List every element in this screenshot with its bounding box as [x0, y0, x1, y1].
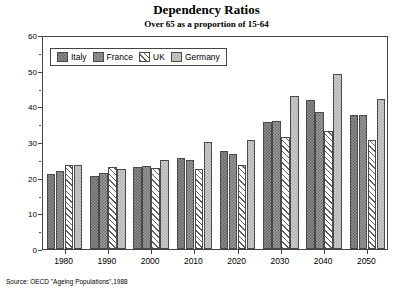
- x-axis-label-2010: 2010: [173, 256, 213, 266]
- y-axis-label-20: 20: [17, 174, 37, 183]
- x-axis-label-2020: 2020: [217, 256, 257, 266]
- bar-germany-2000: [160, 160, 169, 249]
- y-tick-60: [38, 36, 42, 37]
- plot-area: [42, 36, 388, 250]
- x-tick-2010: [194, 249, 195, 254]
- bar-france-2040: [315, 112, 324, 249]
- y-tick-minor-35: [39, 125, 41, 126]
- bar-germany-2010: [204, 142, 213, 249]
- chart-page: Dependency Ratios Over 65 as a proportio…: [0, 0, 413, 297]
- x-axis-label-1980: 1980: [44, 256, 84, 266]
- bar-france-2010: [186, 160, 195, 249]
- legend-label-italy: Italy: [71, 52, 87, 62]
- bar-italy-2020: [220, 151, 229, 249]
- x-tick-2000: [151, 249, 152, 254]
- x-axis-label-2030: 2030: [260, 256, 300, 266]
- legend-label-france: France: [107, 52, 133, 62]
- legend-item-uk: UK: [139, 52, 165, 62]
- legend-item-france: France: [93, 52, 133, 62]
- bar-group-2050: [350, 37, 386, 249]
- legend-swatch-germany: [171, 52, 182, 62]
- bar-france-2050: [359, 115, 368, 249]
- bar-uk-2010: [195, 169, 204, 249]
- legend-swatch-italy: [57, 52, 68, 62]
- bar-germany-2040: [333, 74, 342, 249]
- bar-group-2030: [263, 37, 299, 249]
- bar-group-2010: [177, 37, 213, 249]
- bar-group-2000: [133, 37, 169, 249]
- source-note: Source: OECD "Ageing Populations",1988: [6, 278, 128, 285]
- legend-label-uk: UK: [153, 52, 165, 62]
- y-axis-label-30: 30: [17, 139, 37, 148]
- y-tick-minor-25: [39, 161, 41, 162]
- bar-germany-1990: [117, 169, 126, 249]
- bar-italy-2010: [177, 158, 186, 249]
- y-axis-label-0: 0: [17, 246, 37, 255]
- bar-france-1980: [56, 171, 65, 249]
- legend-swatch-uk: [139, 52, 150, 62]
- bar-italy-2030: [263, 122, 272, 249]
- y-tick-minor-5: [39, 232, 41, 233]
- x-axis-label-1990: 1990: [87, 256, 127, 266]
- y-axis-label-40: 40: [17, 103, 37, 112]
- legend-item-italy: Italy: [57, 52, 87, 62]
- legend-label-germany: Germany: [185, 52, 220, 62]
- chart-title: Dependency Ratios: [0, 2, 413, 18]
- y-tick-50: [38, 72, 42, 73]
- bar-italy-2050: [350, 115, 359, 249]
- legend-swatch-france: [93, 52, 104, 62]
- bar-uk-2030: [281, 137, 290, 249]
- y-tick-0: [38, 250, 42, 251]
- bar-uk-2040: [324, 131, 333, 249]
- bar-italy-1980: [47, 174, 56, 249]
- bar-uk-2020: [238, 165, 247, 249]
- x-tick-2050: [367, 249, 368, 254]
- x-axis-label-2040: 2040: [303, 256, 343, 266]
- legend-item-germany: Germany: [171, 52, 220, 62]
- x-tick-2030: [281, 249, 282, 254]
- bar-group-2040: [306, 37, 342, 249]
- y-axis-label-60: 60: [17, 32, 37, 41]
- chart-subtitle: Over 65 as a proportion of 15-64: [0, 19, 413, 29]
- y-tick-10: [38, 214, 42, 215]
- bar-uk-2050: [368, 140, 377, 249]
- y-tick-20: [38, 179, 42, 180]
- x-tick-2040: [324, 249, 325, 254]
- y-tick-minor-45: [39, 90, 41, 91]
- y-tick-minor-15: [39, 197, 41, 198]
- bar-italy-2000: [133, 167, 142, 249]
- bar-italy-1990: [90, 176, 99, 249]
- bar-france-2020: [229, 154, 238, 249]
- bar-group-2020: [220, 37, 256, 249]
- y-axis-label-10: 10: [17, 210, 37, 219]
- bar-uk-1990: [108, 167, 117, 249]
- bar-germany-2050: [377, 99, 386, 249]
- bar-germany-2030: [290, 96, 299, 249]
- bar-uk-1980: [65, 165, 74, 249]
- bar-france-1990: [99, 173, 108, 249]
- x-tick-2020: [238, 249, 239, 254]
- y-tick-30: [38, 143, 42, 144]
- bar-germany-2020: [247, 140, 256, 249]
- bar-france-2030: [272, 121, 281, 249]
- chart-legend: Italy France UK Germany: [50, 48, 227, 66]
- bar-italy-2040: [306, 100, 315, 249]
- x-axis-label-2050: 2050: [346, 256, 386, 266]
- bar-france-2000: [142, 166, 151, 249]
- x-axis-label-2000: 2000: [130, 256, 170, 266]
- bar-group-1980: [47, 37, 83, 249]
- y-tick-minor-55: [39, 54, 41, 55]
- x-tick-1980: [65, 249, 66, 254]
- bar-series-container: [43, 37, 387, 249]
- bar-uk-2000: [151, 168, 160, 249]
- bar-germany-1980: [74, 165, 83, 249]
- x-tick-1990: [108, 249, 109, 254]
- bar-group-1990: [90, 37, 126, 249]
- y-tick-40: [38, 107, 42, 108]
- y-axis-label-50: 50: [17, 67, 37, 76]
